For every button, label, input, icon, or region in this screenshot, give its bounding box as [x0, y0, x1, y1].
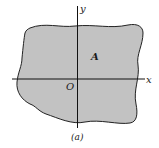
region-label: A — [90, 51, 99, 62]
area-diagram: y x A O (a) — [0, 0, 159, 148]
figure-caption: (a) — [71, 132, 84, 142]
x-axis-label: x — [146, 74, 152, 85]
origin-label: O — [66, 81, 74, 92]
area-region — [17, 24, 143, 123]
y-axis-label: y — [79, 3, 86, 14]
